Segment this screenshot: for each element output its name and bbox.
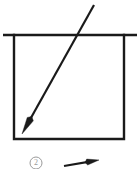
circled-number-label: 2 xyxy=(34,159,38,167)
background-plate xyxy=(0,0,137,169)
diagram-svg xyxy=(0,0,137,169)
diagram-canvas: 2 xyxy=(0,0,137,169)
